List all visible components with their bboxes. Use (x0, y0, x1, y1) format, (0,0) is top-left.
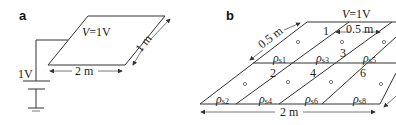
strip-dimension-left: 0.5 m (255, 23, 286, 51)
region-number-4: 4 (310, 66, 316, 80)
figure-canvas: a V=1V 1 m 2 m 1V b (0, 0, 396, 125)
node-marker (382, 40, 385, 43)
node-marker (296, 40, 299, 43)
node-marker (286, 80, 289, 83)
width-dimension: 2 m (75, 64, 94, 78)
node-marker (329, 80, 332, 83)
region-number-2: 2 (270, 66, 276, 80)
node-marker (340, 40, 343, 43)
region-number-6: 6 (360, 66, 366, 80)
panel-b: b V=1V 0.5 m 0.5 m 1 2 3 4 6 (200, 7, 396, 119)
rho-label-s5: ρs5 (362, 51, 376, 65)
rho-label-s2: ρs2 (215, 92, 229, 106)
panel-a: a V=1V 1 m 2 m 1V (18, 8, 170, 111)
node-marker (379, 82, 382, 85)
rho-label-s8: ρs8 (352, 92, 366, 106)
panel-b-label: b (226, 8, 234, 23)
plate-voltage-label: V=1V (82, 25, 111, 39)
depth-arrow-partial (384, 96, 396, 107)
region-number-3: 3 (340, 46, 346, 60)
node-marker (243, 82, 246, 85)
panel-a-label: a (19, 8, 27, 23)
source-label: 1V (18, 67, 33, 81)
divider-4 (380, 73, 396, 104)
width-dimension: 2 m (280, 105, 299, 119)
rho-label-s4: ρs4 (258, 92, 272, 106)
plate-voltage-label: V=1V (342, 7, 371, 21)
rho-label-s3: ρs3 (315, 51, 329, 65)
region-number-1: 1 (323, 24, 329, 38)
rho-label-s1: ρs1 (272, 51, 286, 65)
left-dim-arrow-down (250, 50, 263, 60)
rho-label-s6: ρs6 (304, 92, 318, 106)
strip-dimension-top: 0.5 m (346, 22, 374, 36)
